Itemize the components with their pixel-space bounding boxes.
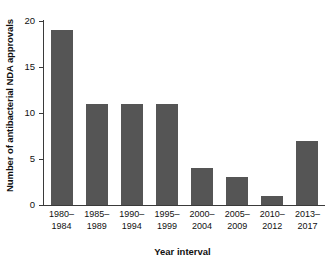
x-tick-label-line: 2017	[285, 221, 329, 233]
bar	[226, 177, 248, 205]
bar-chart-figure: Number of antibacterial NDA approvals 05…	[0, 0, 335, 269]
bar	[191, 168, 213, 205]
x-tick-label: 2013–2017	[285, 209, 329, 232]
bar	[121, 104, 143, 205]
bar	[86, 104, 108, 205]
plot-area	[44, 21, 325, 205]
y-tick-label: 10	[24, 107, 35, 118]
bar	[296, 141, 318, 205]
y-tick-label: 20	[24, 15, 35, 26]
y-tick-mark	[39, 113, 43, 114]
bar	[156, 104, 178, 205]
y-tick-mark	[39, 67, 43, 68]
x-axis-title: Year interval	[40, 246, 325, 257]
bar	[261, 196, 283, 205]
y-tick-mark	[39, 21, 43, 22]
bar	[51, 30, 73, 205]
y-tick-label: 15	[24, 61, 35, 72]
y-tick-mark	[39, 205, 43, 206]
y-tick-label: 0	[30, 199, 35, 210]
y-axis-title: Number of antibacterial NDA approvals	[3, 3, 17, 208]
y-tick-label: 5	[30, 153, 35, 164]
x-tick-label-line: 2013–	[285, 209, 329, 221]
x-axis-line	[43, 205, 325, 206]
y-tick-mark	[39, 159, 43, 160]
